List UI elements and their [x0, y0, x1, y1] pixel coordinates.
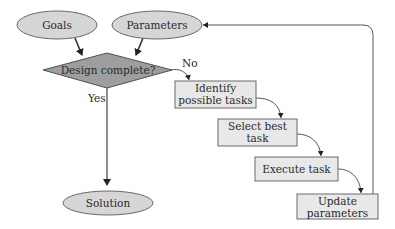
- edge-label-yes: Yes: [87, 92, 106, 104]
- edge-label-no: No: [182, 57, 198, 69]
- edge-execute-to-update: [338, 169, 361, 193]
- node-solution-label: Solution: [86, 197, 131, 209]
- node-parameters: Parameters: [112, 11, 202, 39]
- node-execute-label: Execute task: [262, 163, 331, 175]
- node-identify-possible-tasks: Identify possible tasks: [175, 81, 256, 108]
- node-update-label-line2: parameters: [307, 207, 368, 219]
- edge-identify-to-select: [256, 98, 281, 118]
- edge-goals-to-decision: [75, 38, 82, 55]
- node-identify-label-line1: Identify: [195, 82, 236, 94]
- node-goals-label: Goals: [42, 19, 72, 31]
- node-execute-task: Execute task: [255, 157, 338, 181]
- edge-parameters-to-decision: [136, 38, 143, 55]
- node-design-complete: Design complete?: [43, 53, 172, 88]
- node-identify-label-line2: possible tasks: [178, 94, 252, 106]
- node-select-label-line1: Select best: [228, 120, 288, 132]
- node-select-best-task: Select best task: [218, 119, 297, 146]
- node-update-parameters: Update parameters: [297, 194, 378, 219]
- edge-decision-no-to-identify: [170, 69, 189, 80]
- node-goals: Goals: [17, 11, 97, 39]
- edge-select-to-execute: [297, 134, 321, 156]
- node-solution: Solution: [63, 191, 153, 215]
- node-parameters-label: Parameters: [126, 19, 187, 31]
- node-update-label-line1: Update: [318, 195, 357, 207]
- design-process-flowchart: Goals Parameters Design complete? No Yes…: [0, 0, 395, 229]
- node-design-complete-label: Design complete?: [61, 64, 156, 76]
- node-select-label-line2: task: [246, 132, 269, 144]
